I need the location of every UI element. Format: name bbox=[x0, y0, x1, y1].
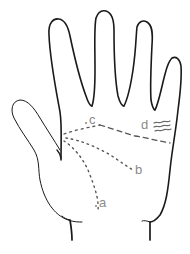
thumb-outline bbox=[12, 100, 82, 222]
label-d: d bbox=[141, 118, 148, 131]
label-a: a bbox=[99, 196, 106, 209]
palm-line-a bbox=[64, 141, 98, 210]
palm-line-heart bbox=[100, 125, 170, 143]
d-wavy-line-3 bbox=[155, 129, 171, 131]
wrist-left-line bbox=[70, 220, 72, 240]
label-c: c bbox=[89, 113, 96, 126]
label-b: b bbox=[135, 163, 142, 176]
c-marker-dot bbox=[85, 122, 87, 124]
middle-finger-outline bbox=[92, 11, 124, 106]
d-wavy-line-1 bbox=[154, 121, 170, 123]
a-marker-dot bbox=[95, 205, 97, 207]
d-wavy-line-2 bbox=[154, 125, 170, 127]
index-finger-outline bbox=[49, 19, 92, 160]
ring-finger-outline bbox=[124, 21, 155, 110]
hand-outline-figure bbox=[0, 0, 190, 254]
wrist-right-flare bbox=[142, 221, 150, 222]
palm-line-b bbox=[66, 138, 133, 170]
